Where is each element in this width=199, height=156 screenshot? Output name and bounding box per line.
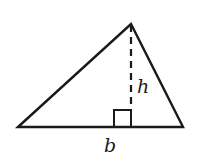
height-label: h	[137, 75, 149, 97]
triangle-diagram: h b	[0, 0, 199, 156]
right-angle-marker	[114, 110, 131, 127]
triangle-outline	[18, 24, 183, 127]
base-label: b	[104, 134, 116, 156]
